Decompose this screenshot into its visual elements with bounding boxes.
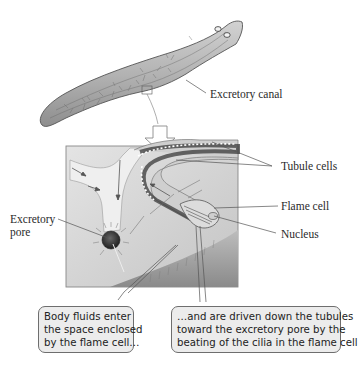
- label-excretory-canal: Excretory canal: [210, 88, 282, 101]
- callout-driven-down-tubules: …and are driven down the tubules toward …: [171, 306, 341, 353]
- excretory-pore-shape: [102, 231, 120, 249]
- label-tubule-cells: Tubule cells: [281, 160, 337, 173]
- leader-line: [186, 80, 206, 93]
- eyespot-icon: [224, 33, 230, 38]
- nucleus-shape: [209, 213, 218, 220]
- planarian-body: [40, 21, 242, 126]
- eyespot-icon: [215, 27, 221, 32]
- label-nucleus: Nucleus: [281, 228, 319, 241]
- callout-body-fluids-enter: Body fluids enter the space enclosed by …: [38, 306, 134, 353]
- inset-cross-section: [66, 139, 238, 287]
- label-flame-cell: Flame cell: [281, 200, 329, 213]
- label-excretory-pore: Excretory pore: [10, 213, 55, 239]
